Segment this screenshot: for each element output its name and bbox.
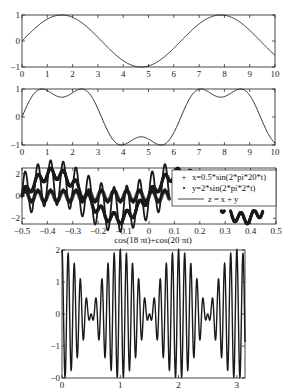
- x-tick-label: 0: [20, 69, 25, 79]
- x-tick-label: −0.4: [39, 226, 56, 236]
- axes-box: [22, 15, 275, 67]
- x-tick-label: 2: [176, 380, 181, 390]
- subplot-sum-signals: −0.5−0.4−0.3−0.2−0.100.10.20.30.40.5−202…: [10, 160, 282, 236]
- x-tick-label: 6: [172, 147, 177, 157]
- x-tick-label: 7: [197, 147, 202, 157]
- y-tick-label: −0: [50, 373, 60, 383]
- y-tick-label: −1: [10, 140, 20, 150]
- y-tick-label: 0: [56, 309, 61, 319]
- x-tick-label: 10: [271, 147, 281, 157]
- legend-label: y=2*sin(2*pi*2*t): [192, 183, 256, 193]
- x-tick-label: 2: [70, 147, 75, 157]
- x-tick-label: 8: [222, 69, 227, 79]
- subplot-beat-signal: cos(18 πt)+cos(20 πt) 0123210−1−0: [50, 235, 245, 390]
- x-tick-label: 0: [20, 147, 25, 157]
- y-tick-label: 2: [16, 169, 21, 179]
- subplot-square-partial: 012345678910−101: [10, 84, 280, 157]
- x-tick-label: 0.3: [220, 226, 232, 236]
- x-tick-label: 2: [70, 69, 75, 79]
- data-line: [22, 15, 275, 67]
- x-tick-label: 0.2: [194, 226, 205, 236]
- x-tick-label: 4: [121, 147, 126, 157]
- y-tick-label: 0: [16, 112, 21, 122]
- x-tick-label: 1: [45, 147, 50, 157]
- x-tick-label: −0.5: [14, 226, 31, 236]
- x-tick-label: 5: [146, 147, 151, 157]
- figure: 012345678910−101 012345678910−101 −0.5−0…: [0, 0, 291, 391]
- x-tick-label: −0.2: [90, 226, 106, 236]
- x-tick-label: 0.4: [245, 226, 257, 236]
- x-tick-label: 3: [235, 380, 240, 390]
- y-tick-label: −2: [10, 213, 20, 223]
- x-tick-label: 0.5: [270, 226, 282, 236]
- x-tick-label: 1: [118, 380, 123, 390]
- y-tick-label: 0: [16, 191, 21, 201]
- subplot-sine: 012345678910−101: [10, 10, 280, 79]
- y-tick-label: −1: [50, 341, 60, 351]
- y-tick-label: 0: [16, 36, 21, 46]
- data-line: [22, 89, 275, 145]
- x-tick-label: −0.3: [65, 226, 82, 236]
- data-line: [62, 250, 245, 377]
- x-tick-label: 5: [146, 69, 151, 79]
- x-tick-label: 1: [45, 69, 50, 79]
- legend-label: x=0.5*sin(2*pi*20*t): [192, 172, 266, 182]
- plot-title: cos(18 πt)+cos(20 πt): [114, 235, 192, 245]
- x-tick-label: 7: [197, 69, 202, 79]
- x-tick-label: 4: [121, 69, 126, 79]
- y-tick-label: 1: [16, 10, 21, 20]
- y-tick-label: 2: [56, 245, 61, 255]
- x-tick-label: 8: [222, 147, 227, 157]
- dot-marker-icon: •: [183, 183, 186, 193]
- plus-marker-icon: +: [182, 172, 187, 182]
- x-tick-label: 0: [60, 380, 65, 390]
- x-tick-label: 9: [247, 69, 252, 79]
- legend: +x=0.5*sin(2*pi*20*t)•y=2*sin(2*pi*2*t)z…: [172, 170, 276, 206]
- y-tick-label: 1: [56, 277, 61, 287]
- x-tick-label: 6: [172, 69, 177, 79]
- x-tick-label: 3: [96, 147, 101, 157]
- y-tick-label: 1: [16, 84, 21, 94]
- x-tick-label: 3: [96, 69, 101, 79]
- x-tick-label: 10: [271, 69, 281, 79]
- x-tick-label: 9: [247, 147, 252, 157]
- legend-label: z = x + y: [208, 194, 239, 204]
- y-tick-label: −1: [10, 62, 20, 72]
